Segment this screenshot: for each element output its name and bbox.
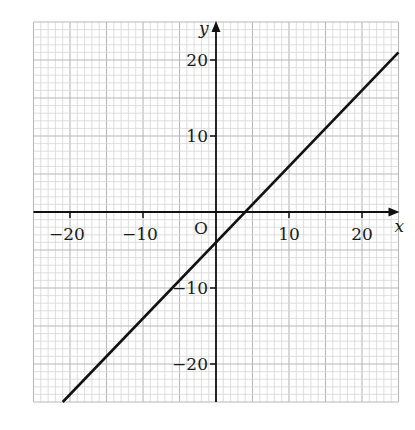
tick-labels: −20−1010202010−10−20Oxy xyxy=(49,18,404,374)
axes xyxy=(34,21,400,402)
x-tick-label: 10 xyxy=(278,224,300,244)
chart-plot: −20−1010202010−10−20Oxy xyxy=(0,0,415,430)
x-tick-label: −10 xyxy=(122,224,158,244)
x-tick-label: 20 xyxy=(351,224,373,244)
y-tick-label: 20 xyxy=(186,50,208,70)
y-tick-label: 10 xyxy=(186,126,208,146)
y-axis-arrow-icon xyxy=(212,21,221,32)
origin-label: O xyxy=(194,218,208,238)
x-axis-label: x xyxy=(395,216,405,236)
y-axis-label: y xyxy=(198,18,209,38)
y-tick-label: −20 xyxy=(172,354,208,374)
x-tick-label: −20 xyxy=(49,224,85,244)
